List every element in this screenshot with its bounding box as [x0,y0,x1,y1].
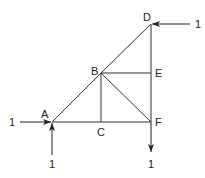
node-label-e: E [155,67,162,79]
truss-diagram: A B C D E F 1 1 1 1 [0,0,205,178]
load-arrows [20,24,190,155]
member-ab [52,73,101,122]
load-label-a-vertical: 1 [49,158,55,170]
load-label-d-horizontal: 1 [195,18,201,30]
load-label-a-horizontal: 1 [9,116,15,128]
node-label-b: B [91,65,98,77]
member-bd [101,24,151,73]
truss-members [52,24,151,122]
node-label-c: C [97,126,105,138]
node-label-d: D [143,11,151,23]
member-bf [101,73,151,122]
node-label-a: A [41,108,49,120]
node-label-f: F [155,116,162,128]
load-label-f-vertical: 1 [148,158,154,170]
load-labels: 1 1 1 1 [9,18,201,170]
